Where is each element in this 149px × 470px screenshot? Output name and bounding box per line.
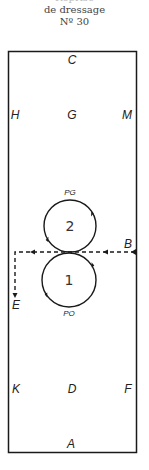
- circle-2-number: 2: [66, 218, 75, 234]
- arrow-left-2-icon: [30, 250, 35, 255]
- circle-1-number: 1: [65, 272, 74, 288]
- letter-a: A: [66, 437, 75, 451]
- letter-k: K: [12, 382, 21, 396]
- letter-c: C: [68, 53, 77, 67]
- label-po: PO: [63, 309, 75, 318]
- dressage-arena-diagram: C H G M B E K D F A PG 2 1 PO: [0, 0, 149, 470]
- letter-m: M: [122, 108, 132, 122]
- arrow-left-1-icon: [103, 250, 108, 255]
- letter-f: F: [124, 382, 132, 396]
- label-pg: PG: [64, 188, 76, 197]
- dashed-path-b-to-e: [15, 252, 135, 294]
- letter-h: H: [11, 108, 20, 122]
- letter-d: D: [68, 382, 77, 396]
- letter-g: G: [67, 108, 76, 122]
- letter-b: B: [124, 237, 132, 251]
- letter-e: E: [12, 298, 21, 312]
